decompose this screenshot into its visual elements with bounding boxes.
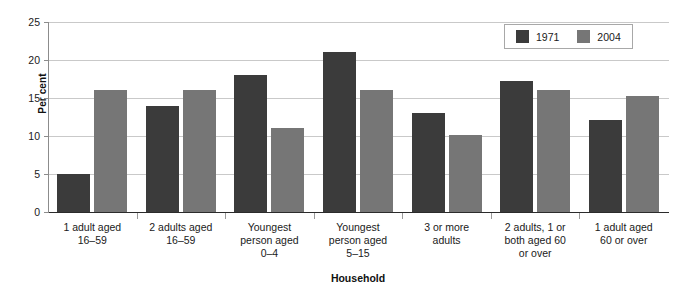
x-axis-tick-label: 2 adults aged 16–59 [137,221,226,260]
bar-2004 [183,90,216,212]
y-axis-tick-label: 0 [34,206,40,218]
x-axis-title: Household [48,272,668,284]
bar-group [402,22,491,212]
category-separator-tick [137,213,138,219]
y-axis-tick-label: 25 [28,16,40,28]
legend-swatch-icon [516,30,529,43]
bar-1971 [57,174,90,212]
bar-1971 [589,120,622,212]
bar-1971 [323,52,356,212]
category-separator-tick [579,213,580,219]
x-axis-tick-label: 3 or more adults [402,221,491,260]
bar-group [314,22,403,212]
bar-2004 [94,90,127,212]
x-axis-tick-label: 1 adult aged 60 or over [579,221,668,260]
bar-2004 [537,90,570,212]
y-axis-tick-label: 15 [28,92,40,104]
bar-group [137,22,226,212]
bar-1971 [412,113,445,212]
bar-group [48,22,137,212]
x-axis-tick-label: Youngest person aged 0–4 [225,221,314,260]
legend-label: 2004 [597,31,620,43]
legend-swatch-icon [577,30,590,43]
bar-chart: Per cent 0510152025 1 adult aged 16–592 … [0,0,675,290]
bar-2004 [626,96,659,212]
legend-entry-2004: 2004 [577,30,620,43]
y-axis-tick-label: 20 [28,54,40,66]
category-separator-tick [225,213,226,219]
legend-label: 1971 [536,31,559,43]
bar-1971 [234,75,267,212]
bar-2004 [449,135,482,212]
x-axis-tick-label: 2 adults, 1 or both aged 60 or over [491,221,580,260]
bar-1971 [146,106,179,212]
bar-2004 [360,90,393,212]
category-separator-tick [402,213,403,219]
y-axis-tick-label: 10 [28,130,40,142]
category-separators [48,213,668,219]
x-axis-tick-label: Youngest person aged 5–15 [314,221,403,260]
bars-group [48,22,668,212]
x-axis-tick-labels: 1 adult aged 16–592 adults aged 16–59You… [48,221,668,260]
legend: 19712004 [504,24,633,49]
bar-group [225,22,314,212]
category-separator-tick [314,213,315,219]
bar-group [491,22,580,212]
y-axis-tick-label: 5 [34,168,40,180]
category-separator-tick [491,213,492,219]
x-axis-tick-label: 1 adult aged 16–59 [48,221,137,260]
bar-1971 [500,81,533,212]
legend-entry-1971: 1971 [516,30,559,43]
bar-2004 [271,128,304,212]
bar-group [579,22,668,212]
